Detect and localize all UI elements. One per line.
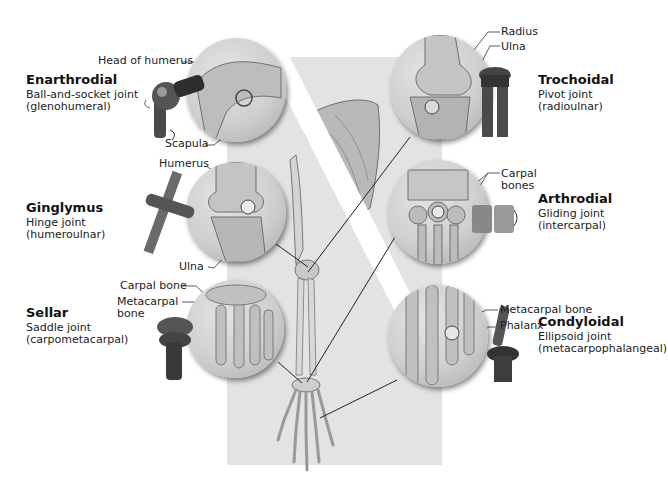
condyloidal-example: (metacarpophalangeal) <box>538 343 667 355</box>
sellar-detail-circle <box>186 280 284 378</box>
hinge-model-icon <box>140 170 200 260</box>
trochoidal-title: Trochoidal <box>538 72 614 87</box>
saddle-model-icon <box>150 312 200 382</box>
label-metacarpal-bone-line2: bone <box>117 308 144 320</box>
label-phalanx: Phalanx <box>500 320 544 332</box>
arthrodial-example: (intercarpal) <box>538 220 606 232</box>
label-metacarpal-bone: Metacarpal bone <box>500 304 592 316</box>
label-radius: Radius <box>501 26 538 38</box>
label-carpal-bones-line2: bones <box>501 180 534 192</box>
ginglymus-detail-circle <box>186 162 286 262</box>
pivot-model-icon <box>475 60 515 140</box>
enarthrodial-example: (glenohumeral) <box>26 101 111 113</box>
sellar-example: (carpometacarpal) <box>26 334 128 346</box>
label-carpal-bone: Carpal bone <box>120 280 187 292</box>
label-humerus: Humerus <box>159 158 209 170</box>
label-ulna-right: Ulna <box>501 41 526 53</box>
condyloidal-title: Condyloidal <box>538 314 624 329</box>
ginglymus-example: (humeroulnar) <box>26 229 105 241</box>
gliding-model-icon <box>470 200 520 240</box>
trochoidal-example: (radioulnar) <box>538 101 603 113</box>
enarthrodial-title: Enarthrodial <box>26 72 117 87</box>
label-ulna-left: Ulna <box>179 261 204 273</box>
ball-and-socket-model-icon <box>140 68 210 143</box>
label-head-of-humerus: Head of humerus <box>98 55 193 67</box>
sellar-title: Sellar <box>26 305 68 320</box>
label-scapula: Scapula <box>165 138 209 150</box>
ellipsoid-model-icon <box>478 306 528 386</box>
arthrodial-title: Arthrodial <box>538 191 612 206</box>
condyloidal-detail-circle <box>388 285 488 387</box>
ginglymus-title: Ginglymus <box>26 200 103 215</box>
